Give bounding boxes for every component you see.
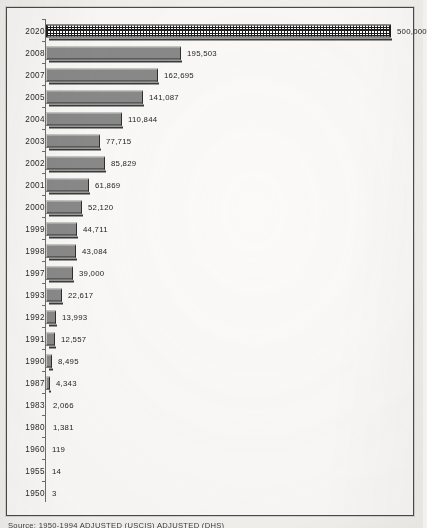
- value-label-1993: 22,617: [68, 291, 93, 300]
- value-label-1960: 119: [52, 445, 65, 454]
- value-label-1990: 8,495: [58, 357, 79, 366]
- category-label-1950: 1950: [15, 489, 45, 498]
- bar-row: 199944,711: [7, 217, 413, 241]
- bar-1997: [46, 267, 73, 280]
- category-label-2000: 2000: [15, 203, 45, 212]
- value-label-2005: 141,087: [149, 93, 179, 102]
- bar-wrapper: [46, 421, 47, 434]
- axis-tick: [42, 393, 46, 394]
- bar-row: 19801,381: [7, 415, 413, 439]
- bar-row: 200052,120: [7, 195, 413, 219]
- bar-row: 200161,869: [7, 173, 413, 197]
- category-label-2004: 2004: [15, 115, 45, 124]
- axis-tick: [42, 459, 46, 460]
- axis-tick: [42, 415, 46, 416]
- bar-row: 2008195,503: [7, 41, 413, 65]
- bar-row: 19503: [7, 481, 413, 505]
- axis-tick: [42, 371, 46, 372]
- value-label-1950: 3: [52, 489, 57, 498]
- bar-1999: [46, 223, 77, 236]
- bar-2004: [46, 113, 122, 126]
- value-label-2008: 195,503: [187, 49, 217, 58]
- value-label-1991: 12,557: [61, 335, 86, 344]
- value-label-2001: 61,869: [95, 181, 120, 190]
- chart-frame: 2020500,0002008195,5032007162,6952005141…: [6, 7, 414, 516]
- value-label-1987: 4,343: [56, 379, 77, 388]
- bar-2005: [46, 91, 143, 104]
- value-label-1980: 1,381: [53, 423, 74, 432]
- category-label-2020: 2020: [15, 27, 45, 36]
- bar-wrapper: [46, 223, 77, 236]
- value-label-2000: 52,120: [88, 203, 113, 212]
- axis-tick: [42, 173, 46, 174]
- bar-row: 19832,066: [7, 393, 413, 417]
- category-label-1992: 1992: [15, 313, 45, 322]
- bar-row: 2004110,844: [7, 107, 413, 131]
- bar-row: 200285,829: [7, 151, 413, 175]
- bar-row: 199843,084: [7, 239, 413, 263]
- bar-wrapper: [46, 289, 62, 302]
- bar-row: 19908,495: [7, 349, 413, 373]
- bar-chart-plot-area: 2020500,0002008195,5032007162,6952005141…: [7, 8, 413, 515]
- category-label-1960: 1960: [15, 445, 45, 454]
- axis-tick: [42, 129, 46, 130]
- bar-row: 19874,343: [7, 371, 413, 395]
- axis-tick: [42, 261, 46, 262]
- category-label-1980: 1980: [15, 423, 45, 432]
- bar-2003: [46, 135, 100, 148]
- bar-wrapper: [46, 201, 82, 214]
- bar-1998: [46, 245, 76, 258]
- value-label-2002: 85,829: [111, 159, 136, 168]
- category-label-1983: 1983: [15, 401, 45, 410]
- axis-tick: [42, 305, 46, 306]
- axis-tick: [42, 195, 46, 196]
- bar-row: 2005141,087: [7, 85, 413, 109]
- axis-tick: [42, 63, 46, 64]
- bar-2008: [46, 47, 181, 60]
- bar-row: 195514: [7, 459, 413, 483]
- category-label-1990: 1990: [15, 357, 45, 366]
- category-label-1998: 1998: [15, 247, 45, 256]
- axis-tick: [42, 349, 46, 350]
- axis-tick: [42, 327, 46, 328]
- category-label-2005: 2005: [15, 93, 45, 102]
- bar-row: 199739,000: [7, 261, 413, 285]
- bar-wrapper: [46, 91, 143, 104]
- bar-2002: [46, 157, 105, 170]
- value-label-2007: 162,695: [164, 71, 194, 80]
- bar-wrapper: [46, 157, 105, 170]
- bar-row: 199322,617: [7, 283, 413, 307]
- category-label-2008: 2008: [15, 49, 45, 58]
- bar-row: 1960119: [7, 437, 413, 461]
- bar-wrapper: [46, 333, 55, 346]
- value-label-1992: 13,993: [62, 313, 87, 322]
- bar-wrapper: [46, 47, 181, 60]
- bar-2007: [46, 69, 158, 82]
- bar-1990: [46, 355, 52, 368]
- bar-1993: [46, 289, 62, 302]
- bar-2020: [46, 25, 391, 38]
- value-label-2003: 77,715: [106, 137, 131, 146]
- source-caption-text: Source: 1950-1994 ADJUSTED (USCIS) ADJUS…: [8, 521, 408, 528]
- axis-tick: [42, 437, 46, 438]
- bar-2001: [46, 179, 89, 192]
- bar-wrapper: [46, 245, 76, 258]
- bar-wrapper: [46, 355, 52, 368]
- bar-row: 2020500,000: [7, 19, 413, 43]
- axis-tick: [42, 107, 46, 108]
- category-label-2001: 2001: [15, 181, 45, 190]
- axis-tick: [42, 85, 46, 86]
- axis-tick: [42, 239, 46, 240]
- bar-wrapper: [46, 135, 100, 148]
- bar-row: 199213,993: [7, 305, 413, 329]
- axis-tick: [42, 19, 46, 20]
- bar-row: 200377,715: [7, 129, 413, 153]
- bar-wrapper: [46, 311, 56, 324]
- value-label-1983: 2,066: [53, 401, 74, 410]
- value-label-1997: 39,000: [79, 269, 104, 278]
- axis-tick: [42, 41, 46, 42]
- value-label-1998: 43,084: [82, 247, 107, 256]
- bar-wrapper: [46, 267, 73, 280]
- axis-tick: [42, 217, 46, 218]
